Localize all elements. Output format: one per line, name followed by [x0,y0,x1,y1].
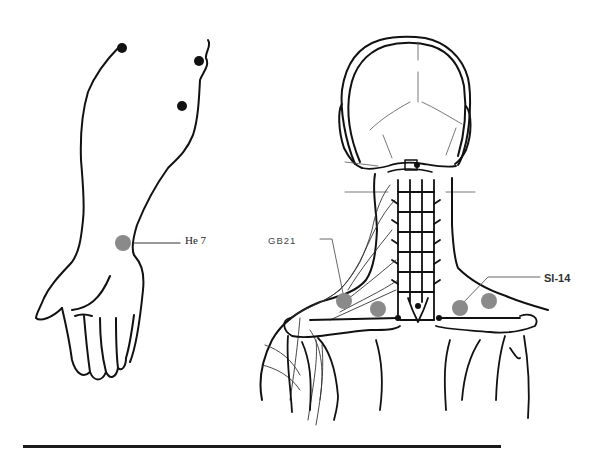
acupuncture-diagram [0,0,608,469]
label-si14: SI-14 [544,272,570,284]
label-gb21: GB21 [268,235,296,246]
acupoint-si14-b [481,293,497,309]
acupoint-gb21 [336,293,352,309]
bottom-divider [23,445,501,448]
label-he7: He 7 [185,234,206,246]
cervical-spine [392,180,440,322]
acupoint-gb21-b [370,301,386,317]
skull-outline [339,37,470,172]
acupoint-he7 [115,235,131,251]
black-point-markers [117,43,442,321]
acupoint-markers [115,235,497,317]
neck-outline [260,174,548,400]
arm-outline [36,40,209,380]
acupoint-si14 [452,300,468,316]
